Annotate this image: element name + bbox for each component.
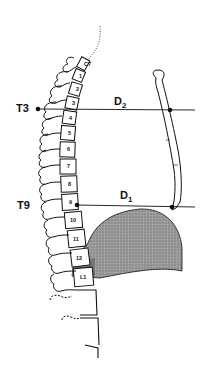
vertebra-label-9: 9: [69, 199, 72, 205]
t3-label: T3: [16, 103, 29, 114]
lumbar-column: [78, 290, 99, 358]
d1-sternum-dot: [170, 205, 175, 210]
t9-spine-dot: [75, 203, 80, 208]
vertebra-label-8: 8: [68, 181, 71, 187]
vertebra-label-6: 6: [67, 146, 70, 152]
vertebra-label-l1: L1: [80, 274, 86, 280]
vertebra-label-10: 10: [70, 217, 76, 223]
t3-spine-dot: [36, 107, 41, 112]
vertebra-label-11: 11: [73, 236, 79, 242]
vertebra-label-1: 1: [79, 73, 82, 79]
d1-label: D1: [120, 190, 132, 201]
vertebra-label-5: 5: [68, 130, 71, 136]
t9-label: T9: [17, 200, 30, 211]
vertebra-label-2: 2: [76, 86, 79, 92]
d1-letter: D: [120, 189, 128, 201]
d2-subscript: 2: [122, 101, 126, 110]
d2-label: D2: [114, 96, 126, 107]
vertebra-label-7: 7: [67, 163, 70, 169]
cervical-outline: [86, 26, 100, 63]
vertebra-label-3: 3: [72, 100, 75, 106]
vertebra-label-12: 12: [76, 255, 82, 261]
d2-letter: D: [114, 95, 122, 107]
d2-sternum-dot: [168, 108, 173, 113]
vertebra-label-c7: C7: [84, 61, 91, 67]
spine-diagram: C7 1 2 3 4 5 6 7 8 9 10 11 12 L1: [0, 0, 211, 371]
d1-subscript: 1: [128, 195, 132, 204]
